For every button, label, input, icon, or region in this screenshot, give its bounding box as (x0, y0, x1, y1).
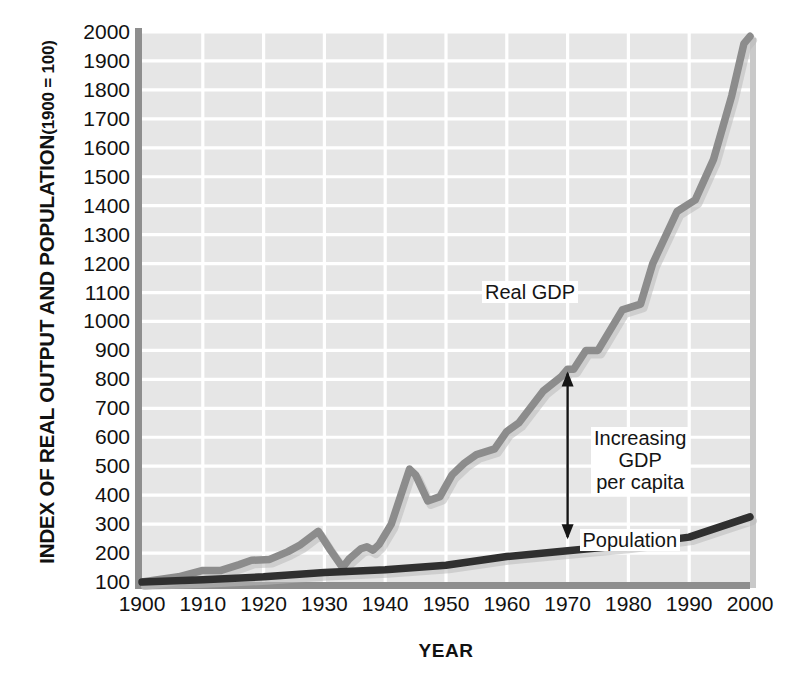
annotation-line-2: GDP (618, 449, 661, 471)
annotation-line-1: Increasing (594, 427, 686, 449)
series-label-real-gdp: Real GDP (482, 281, 578, 303)
x-axis-title: YEAR (142, 640, 750, 662)
chart-plot-area (0, 0, 801, 675)
annotation-line-3: per capita (596, 471, 684, 493)
series-label-population: Population (580, 529, 681, 551)
annotation-increasing-gdp-per-capita: Increasing GDP per capita (591, 427, 689, 494)
axis-spine-left (135, 28, 142, 589)
chart-figure: INDEX OF REAL OUTPUT AND POPULATION(1900… (0, 0, 801, 675)
